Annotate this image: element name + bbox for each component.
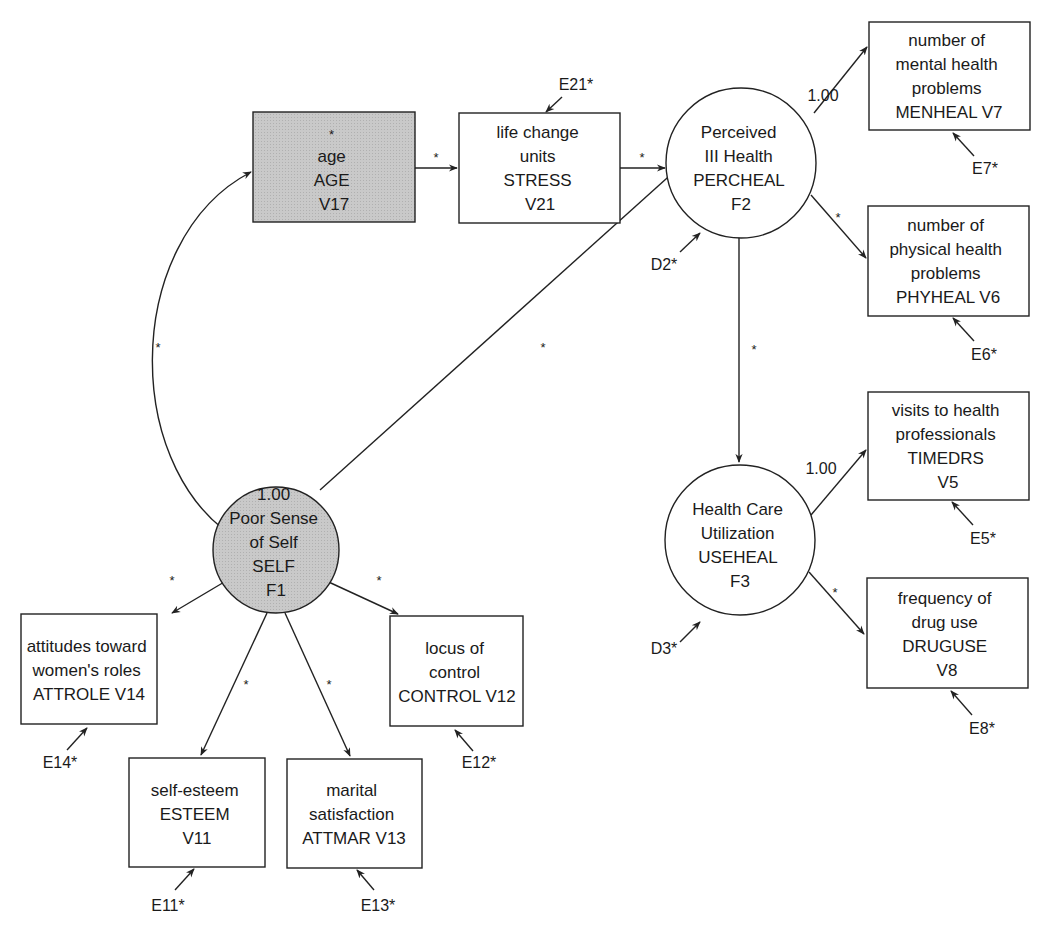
label-self-esteem: * xyxy=(243,677,248,692)
label-percheal-useheal: * xyxy=(751,342,756,357)
disturbance-d3: D3* xyxy=(651,640,678,657)
error-e14: E14* xyxy=(43,754,78,771)
error-arrow-e5 xyxy=(952,502,973,525)
error-arrow-e14 xyxy=(67,728,87,750)
error-arrow-e7 xyxy=(953,133,974,156)
disturbance-d2: D2* xyxy=(651,256,678,273)
label-stress-percheal: * xyxy=(639,150,644,165)
path-self-attmar xyxy=(285,613,350,756)
error-e12: E12* xyxy=(462,754,497,771)
label-percheal-menheal: 1.00 xyxy=(807,87,838,104)
error-arrow-e21 xyxy=(546,97,562,112)
covariance-age-self xyxy=(152,172,251,545)
label-self-age-cov: * xyxy=(155,340,160,355)
label-useheal-druguse: * xyxy=(832,585,837,600)
error-arrow-e8 xyxy=(951,691,972,715)
label-self-percheal: * xyxy=(540,340,545,355)
label-useheal-timedrs: 1.00 xyxy=(805,460,836,477)
label-percheal-phyheal: * xyxy=(835,210,840,225)
label-self-attmar: * xyxy=(326,677,331,692)
error-e5: E5* xyxy=(970,530,996,547)
error-e7: E7* xyxy=(972,160,998,177)
error-e8: E8* xyxy=(969,720,995,737)
sem-diagram: * age AGE V17 life change units STRESS V… xyxy=(0,0,1058,945)
label-self-control: * xyxy=(376,573,381,588)
node-attrole-text: attitudes toward women's roles ATTROLE V… xyxy=(27,637,152,704)
error-arrow-e11 xyxy=(175,869,194,890)
error-arrow-d2 xyxy=(680,233,700,252)
error-arrow-e13 xyxy=(357,870,374,890)
path-useheal-druguse xyxy=(809,572,864,634)
error-arrow-d3 xyxy=(680,622,700,642)
path-self-control xyxy=(320,578,398,614)
path-percheal-phyheal xyxy=(811,195,866,258)
error-e11: E11* xyxy=(151,897,185,914)
error-e6: E6* xyxy=(971,346,997,363)
path-self-esteem xyxy=(201,613,267,755)
error-e13: E13* xyxy=(361,897,396,914)
label-self-attrole: * xyxy=(169,573,174,588)
error-arrow-e6 xyxy=(953,318,974,341)
label-age-stress: * xyxy=(433,150,438,165)
error-arrow-e12 xyxy=(455,730,473,751)
error-e21: E21* xyxy=(559,76,594,93)
